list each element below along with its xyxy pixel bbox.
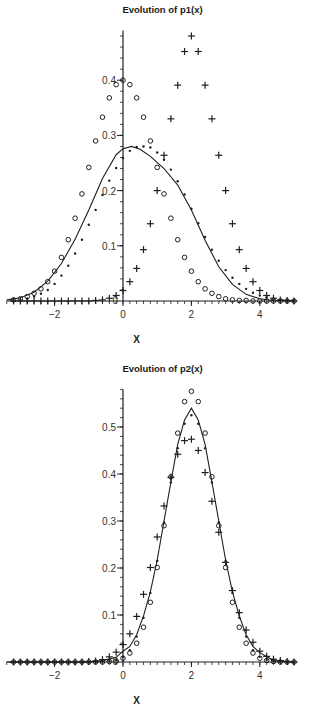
series-circles [11, 389, 296, 664]
y-tick-label: 0.4 [102, 469, 116, 480]
x-tick-label: 0 [120, 309, 126, 320]
series-solid-line [7, 408, 294, 662]
series-plus [10, 436, 297, 666]
y-origin-label: 0 [112, 295, 118, 306]
x-tick-label: −2 [49, 309, 61, 320]
chart-p2: Evolution of p2(x) −20240.10.20.30.40.50… [0, 355, 325, 712]
y-tick-label: 0.2 [102, 186, 116, 197]
x-tick-label: −2 [49, 670, 61, 681]
y-tick-label: 0.1 [102, 241, 116, 252]
y-tick-label: 0.5 [102, 422, 116, 433]
x-tick-label: 0 [120, 670, 126, 681]
x-axis-label: X [133, 334, 140, 345]
x-axis-label: X [133, 695, 140, 706]
series-plus [10, 33, 297, 305]
y-tick-label: 0.3 [102, 516, 116, 527]
series-dots [12, 414, 295, 663]
y-tick-label: 0.1 [102, 610, 116, 621]
plot-area-p2: −20240.10.20.30.40.50X [0, 355, 325, 712]
x-tick-label: 4 [257, 309, 263, 320]
y-tick-label: 0.3 [102, 130, 116, 141]
x-tick-label: 2 [189, 670, 195, 681]
plot-area-p1: −20240.10.20.30.40X [0, 0, 325, 350]
y-tick-label: 0.2 [102, 563, 116, 574]
x-tick-label: 4 [257, 670, 263, 681]
chart-p1: Evolution of p1(x) −20240.10.20.30.40X [0, 0, 325, 350]
x-tick-label: 2 [189, 309, 195, 320]
